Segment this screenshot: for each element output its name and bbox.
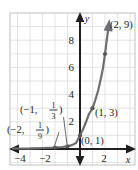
point-label-neg2-close: )	[46, 124, 50, 136]
point-label-1-3: (1, 3)	[95, 107, 118, 119]
point-label-neg1-prefix: (−1,	[20, 104, 37, 116]
point-two	[103, 52, 107, 56]
exponential-graph-figure: −4 −2 2 x 2 4 6 8 y (2, 9) (1, 3) (0, 1)…	[0, 0, 138, 170]
x-tick-2: 2	[101, 152, 107, 164]
point-label-neg1-denominator: 3	[52, 112, 56, 121]
point-label-neg2-numerator: 1	[38, 121, 42, 130]
point-one	[90, 106, 94, 110]
point-label-neg1-close: )	[59, 104, 63, 116]
y-tick-4: 4	[69, 88, 75, 100]
graph-canvas: −4 −2 2 x 2 4 6 8 y (2, 9) (1, 3) (0, 1)…	[0, 0, 138, 170]
y-axis-label: y	[84, 13, 90, 24]
point-label-2-9: (2, 9)	[110, 19, 133, 31]
y-tick-6: 6	[69, 61, 75, 73]
point-label-neg2-prefix: (−2,	[7, 124, 24, 136]
y-tick-8: 8	[69, 34, 75, 46]
point-label-neg1-numerator: 1	[52, 101, 56, 110]
x-tick-neg4: −4	[14, 152, 26, 164]
point-label-neg2-denominator: 9	[38, 132, 42, 141]
point-label-0-1: (0, 1)	[81, 135, 104, 147]
x-tick-neg2: −2	[39, 152, 51, 164]
point-neg1	[65, 144, 69, 148]
y-tick-2: 2	[69, 115, 75, 127]
point-neg2	[53, 145, 57, 149]
x-axis-label: x	[125, 154, 131, 165]
